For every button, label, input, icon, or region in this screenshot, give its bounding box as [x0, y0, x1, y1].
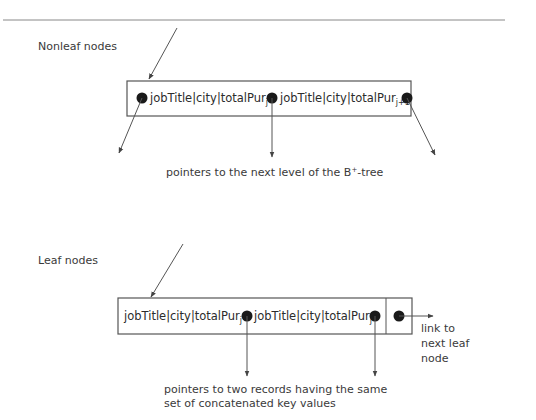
- leaf-title: Leaf nodes: [38, 254, 98, 267]
- b-plus-tree-diagram: Nonleaf nodes jobTitle|city|totalPurj jo…: [0, 0, 536, 420]
- nonleaf-title: Nonleaf nodes: [38, 40, 117, 53]
- leaf-section: Leaf nodes jobTitle|city|totalPurj jobTi…: [38, 244, 470, 410]
- leaf-caption-line-1: pointers to two records having the same: [164, 383, 387, 396]
- nonleaf-key-2: jobTitle|city|totalPurj+1: [279, 91, 410, 107]
- leaf-key-2: jobTitle|city|totalPurj: [253, 309, 372, 325]
- leaf-link-label-3: node: [421, 352, 449, 365]
- leaf-key-1: jobTitle|city|totalPurj: [123, 309, 242, 325]
- nonleaf-child-arrow-3: [407, 98, 435, 155]
- nonleaf-section: Nonleaf nodes jobTitle|city|totalPurj jo…: [38, 28, 435, 179]
- leaf-link-label-2: next leaf: [421, 337, 470, 350]
- nonleaf-incoming-arrow: [149, 28, 177, 79]
- nonleaf-key-1: jobTitle|city|totalPurj: [149, 91, 268, 107]
- leaf-link-label-1: link to: [421, 322, 455, 335]
- nonleaf-caption: pointers to the next level of the B+-tre…: [166, 166, 384, 179]
- leaf-caption-line-2: set of concatenated key values: [164, 397, 336, 410]
- leaf-incoming-arrow: [151, 244, 183, 297]
